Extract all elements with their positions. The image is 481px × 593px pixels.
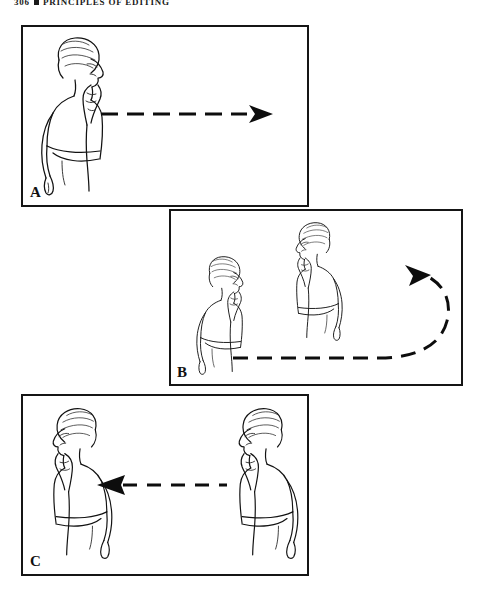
panel-label-a: A (30, 185, 41, 200)
figure-subject-c2 (221, 404, 309, 572)
figure-panel-b: B (169, 209, 463, 386)
square-bullet-icon (34, 0, 39, 5)
dashed-arrow-left-c (95, 470, 231, 500)
running-head-title: PRINCIPLES OF EDITING (43, 0, 170, 7)
panel-label-c: C (30, 554, 41, 569)
running-head-page-number: 306 (14, 0, 30, 7)
figure-panel-c: C (21, 394, 309, 576)
running-head: 306PRINCIPLES OF EDITING (14, 0, 170, 7)
panel-label-b: B (177, 365, 187, 380)
page-canvas: 306PRINCIPLES OF EDITING (0, 0, 481, 593)
dashed-arrow-u-turn-left-b (229, 253, 463, 368)
figure-panel-a: A (21, 25, 309, 207)
dashed-arrow-right-a (99, 99, 279, 129)
